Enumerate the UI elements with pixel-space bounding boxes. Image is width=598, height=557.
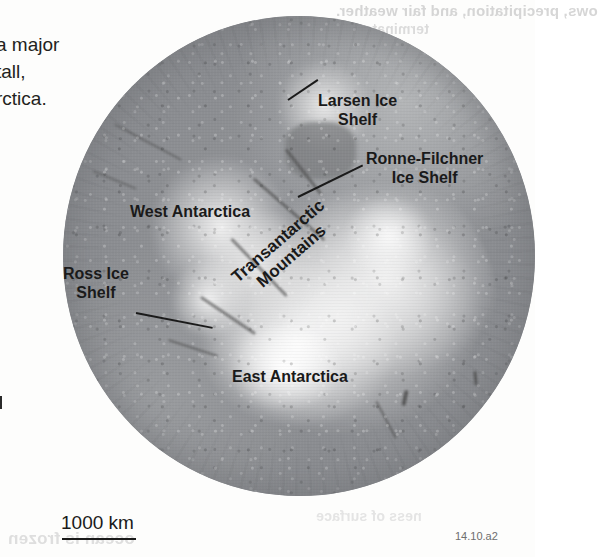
map-label-ross-ice-shelf: Ross Ice Shelf xyxy=(63,265,129,302)
body-text-line-3: rctica. xyxy=(0,85,47,112)
bleedthrough-text-bottom-2: ness of surface xyxy=(316,508,422,524)
bleedthrough-text-top-1: ows, precipitation, and fair weather. xyxy=(336,2,598,19)
map-label-east-antarctica: East Antarctica xyxy=(232,368,348,387)
scalebar-label: 1000 km xyxy=(61,512,134,534)
margin-tick-mark xyxy=(0,396,2,409)
body-text-line-2: tall, xyxy=(0,58,26,85)
map-label-ronne-filchner-ice-shelf: Ronne-Filchner Ice Shelf xyxy=(366,150,483,187)
figure-number: 14.10.a2 xyxy=(455,530,498,542)
scalebar-line xyxy=(62,538,136,540)
body-text-line-1: a major xyxy=(0,31,59,58)
map-label-west-antarctica: West Antarctica xyxy=(130,203,250,222)
map-label-larsen-ice-shelf: Larsen Ice Shelf xyxy=(318,92,397,129)
